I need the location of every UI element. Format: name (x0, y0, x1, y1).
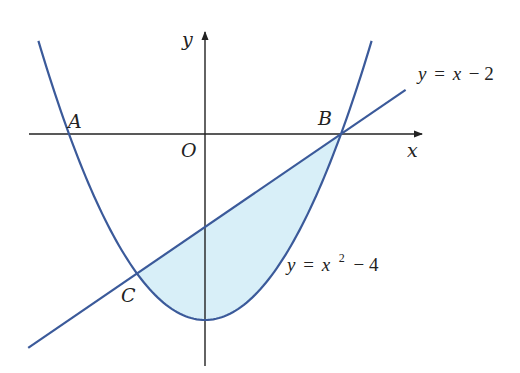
shaded-region (137, 134, 341, 320)
point-a-label: A (66, 110, 82, 132)
svg-text:y = x 2: y = x 2 − 4 (285, 245, 379, 275)
origin-label: O (181, 139, 197, 161)
x-axis-label: x (407, 139, 418, 161)
point-c-label: C (121, 284, 136, 306)
coordinate-diagram: y x O A B C y = x − 2 y = x 2 − 4 (0, 0, 520, 373)
parabola-equation-label: y = x 2 − 4 (285, 245, 379, 275)
line-equation-label: y = x − 2 (416, 63, 494, 84)
svg-text:y = x − 2: y = x − 2 (416, 63, 494, 84)
y-axis-label: y (181, 28, 193, 50)
point-b-label: B (317, 107, 332, 129)
